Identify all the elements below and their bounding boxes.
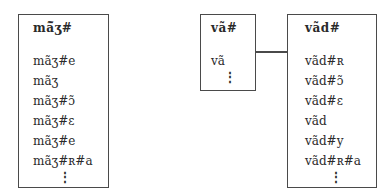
right-box-item: vãd#ʀ	[305, 54, 344, 68]
left-word-box: mã̃ʒ# mãʒ#e mãʒ mãʒ#ɔ̃ mãʒ#ɛ mãʒ#e mãʒ#ʀ…	[18, 14, 109, 188]
right-box-item: vãd#ɔ̃	[305, 74, 343, 88]
vertical-ellipsis-icon: ⋮	[330, 170, 342, 184]
right-word-box: vãd# vãd#ʀ vãd#ɔ̃ vãd#ɛ vãd vãd#y vãd#ʀ#…	[287, 14, 377, 188]
right-box-item: vãd#ʀ#a	[305, 154, 361, 168]
left-box-item: mãʒ#e	[33, 54, 75, 68]
left-box-item: mãʒ	[33, 74, 58, 88]
right-box-item: vãd#y	[305, 134, 343, 148]
left-box-item: mãʒ#e	[33, 134, 75, 148]
right-box-title: vãd#	[305, 21, 340, 35]
right-box-item: vãd	[305, 114, 327, 128]
left-box-item: mãʒ#ɛ	[33, 114, 75, 128]
vertical-ellipsis-icon: ⋮	[59, 170, 71, 184]
middle-box-title: vã#	[211, 21, 237, 35]
left-box-title: mã̃ʒ#	[33, 21, 72, 35]
vertical-ellipsis-icon: ⋮	[224, 70, 236, 84]
middle-box-item: vã	[211, 54, 225, 68]
right-box-item: vãd#ɛ	[305, 94, 343, 108]
left-box-item: mãʒ#ɔ̃	[33, 94, 75, 108]
left-box-item: mãʒ#ʀ#a	[33, 154, 93, 168]
middle-word-box: vã# vã ⋮	[200, 14, 256, 91]
connector-line	[256, 51, 288, 53]
